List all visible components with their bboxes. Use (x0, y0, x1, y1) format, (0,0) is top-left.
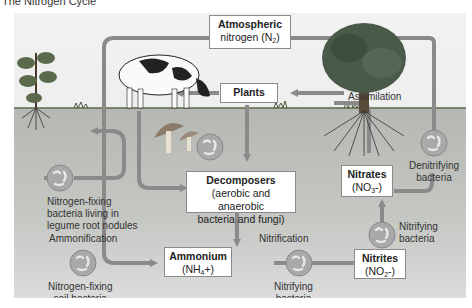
plants-box: Plants (220, 83, 278, 103)
tree-illustration (322, 23, 406, 156)
nitrites-box: Nitrites (NO2-) (354, 249, 406, 279)
denitrifying-bacteria-label: Denitrifying bacteria (409, 160, 459, 184)
nitrates-box: Nitrates (NO3-) (341, 165, 393, 197)
assimilation-label: Assimilation (348, 91, 401, 103)
cow-illustration (119, 55, 210, 108)
decomposers-box: Decomposers (aerobic and anaerobic bacte… (186, 171, 296, 213)
legume-plant-illustration (17, 52, 57, 130)
bacteria-icon (47, 165, 73, 191)
ammonium-box: Ammonium (NH4+) (164, 247, 232, 277)
bacteria-icon (286, 250, 312, 276)
mushroom-illustration (154, 123, 199, 153)
bacteria-icon (197, 134, 223, 160)
nitrification-label: Nitrification (259, 233, 308, 245)
soil-fixing-bacteria-label: Nitrogen-fixing soil bacteria (48, 281, 112, 298)
bacteria-icon (70, 250, 96, 276)
nitrifying-bacteria-label-b: Nitrifying bacteria (399, 221, 438, 245)
nitrogen-cycle-diagram: Atmospheric nitrogen (N2) Plants Decompo… (14, 13, 466, 298)
bacteria-icon (369, 222, 395, 248)
diagram-caption: The Nitrogen Cycle (2, 0, 96, 7)
bacteria-icon (421, 130, 447, 156)
nitrifying-bacteria-label-a: Nitrifying bacteria (274, 281, 313, 298)
legume-bacteria-label: Nitrogen-fixing bacteria living in legum… (47, 196, 138, 232)
atmospheric-nitrogen-box: Atmospheric nitrogen (N2) (209, 15, 291, 49)
ammonification-label: Ammonification (49, 233, 117, 245)
